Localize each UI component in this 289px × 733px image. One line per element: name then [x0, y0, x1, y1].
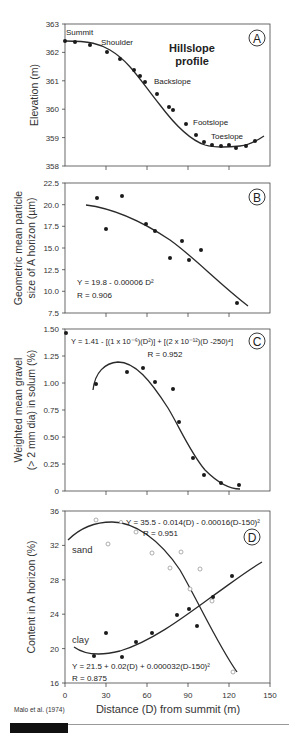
caption-bar	[10, 723, 68, 733]
panel-b-y-axis-label-line2: size of A horizon (µm)	[25, 197, 37, 298]
y-tick-label: 16	[50, 679, 59, 688]
clay-label: clay	[72, 634, 89, 645]
y-tick-label: 24	[50, 610, 59, 619]
panel-b: 22.5 20.0 17.5 15.0 12.5 10.0 7.5 Geomet…	[12, 179, 270, 318]
y-tick-label: 0.75	[43, 406, 59, 415]
y-tick-label: 20	[50, 645, 59, 654]
label-backslope: Backslope	[154, 77, 191, 86]
panel-a-title-line2: profile	[175, 55, 209, 67]
y-tick-label: 0.50	[43, 433, 59, 442]
panel-a-frame	[65, 24, 270, 166]
panel-c-r-value: R = 0.952	[148, 350, 183, 359]
y-tick-label: 1.25	[43, 352, 59, 361]
label-footslope: Footslope	[193, 118, 229, 127]
y-tick-label: 22.5	[43, 179, 59, 188]
x-tick-label: 0	[63, 691, 68, 700]
panel-c-letter: C	[253, 335, 262, 349]
y-tick-label: 28	[50, 576, 59, 585]
y-tick-label: 358	[46, 162, 60, 171]
x-tick-label: 30	[102, 691, 111, 700]
sand-r-value: R = 0.951	[143, 529, 178, 538]
y-tick-label: 360	[46, 105, 60, 114]
y-tick-label: 1.00	[43, 379, 59, 388]
panel-a-letter: A	[253, 32, 261, 46]
sand-legend-marker	[119, 520, 122, 523]
y-tick-label: 7.5	[48, 309, 60, 318]
panel-b-letter: B	[253, 191, 261, 205]
x-tick-label: 150	[263, 691, 277, 700]
panel-a-title-line1: Hillslope	[169, 42, 215, 54]
panel-c-equation: Y = 1.41 - [(1 x 10⁻⁶)(D²)] + [(2 x 10⁻¹…	[71, 337, 233, 346]
panel-d-y-axis-label: Content in A horizon (%)	[25, 540, 37, 653]
panel-b-equation: Y = 19.8 - 0.00006 D²	[77, 278, 154, 287]
sand-label: sand	[72, 544, 93, 555]
x-tick-label: 90	[184, 691, 193, 700]
y-tick-label: 15.0	[43, 244, 59, 253]
caption-strip	[0, 720, 289, 733]
y-tick-label: 363	[46, 20, 60, 29]
panel-c: 1.50 1.25 1.00 0.75 0.50 0.25 0 Weighted…	[12, 325, 270, 496]
x-axis-label: Distance (D) from summit (m)	[96, 703, 240, 715]
y-tick-label: 0.25	[43, 460, 59, 469]
panel-d-letter: D	[248, 531, 257, 545]
x-tick-label: 60	[143, 691, 152, 700]
label-shoulder: Shoulder	[101, 38, 133, 47]
panel-b-markers	[95, 194, 239, 305]
y-tick-label: 361	[46, 77, 60, 86]
y-tick-label: 362	[46, 48, 60, 57]
panel-a: 363 362 361 360 359 358 Elevation (m) Su…	[28, 20, 270, 171]
y-tick-label: 359	[46, 134, 60, 143]
label-toeslope: Toeslope	[211, 132, 244, 141]
y-tick-label: 32	[50, 541, 59, 550]
panel-b-y-axis-label-line1: Geometric mean particle	[12, 191, 24, 306]
source-citation: Malo et al. (1974)	[14, 706, 65, 714]
panel-b-r-value: R = 0.906	[77, 291, 112, 300]
y-tick-label: 0	[55, 487, 60, 496]
y-tick-label: 20.0	[43, 201, 59, 210]
clay-markers	[92, 574, 234, 659]
panel-c-y-axis-label-line1: Weighted mean gravel	[12, 358, 24, 463]
panel-c-fit-curve	[93, 362, 240, 489]
y-tick-label: 1.50	[43, 325, 59, 334]
y-tick-label: 17.5	[43, 222, 59, 231]
panel-d: 36 32 28 24 20 16 0 30 60 90 120 150 Con…	[25, 507, 277, 700]
y-tick-label: 12.5	[43, 266, 59, 275]
hillslope-figure: 363 362 361 360 359 358 Elevation (m) Su…	[0, 0, 289, 733]
clay-r-value: R = 0.875	[72, 674, 107, 683]
panel-c-y-axis-label-line2: (> 2 mm dia) in solum (%)	[25, 350, 37, 470]
clay-equation: Y = 21.5 + 0.02(D) + 0.000032(D-150)²	[72, 662, 210, 671]
sand-equation: Y = 35.5 - 0.014(D) - 0.00016(D-150)²	[126, 518, 260, 527]
label-summit: Summit	[66, 28, 94, 37]
y-tick-label: 10.0	[43, 287, 59, 296]
panel-a-y-axis-label: Elevation (m)	[28, 64, 40, 126]
x-tick-label: 120	[222, 691, 236, 700]
caption-rule	[68, 724, 289, 725]
y-tick-label: 36	[50, 507, 59, 516]
